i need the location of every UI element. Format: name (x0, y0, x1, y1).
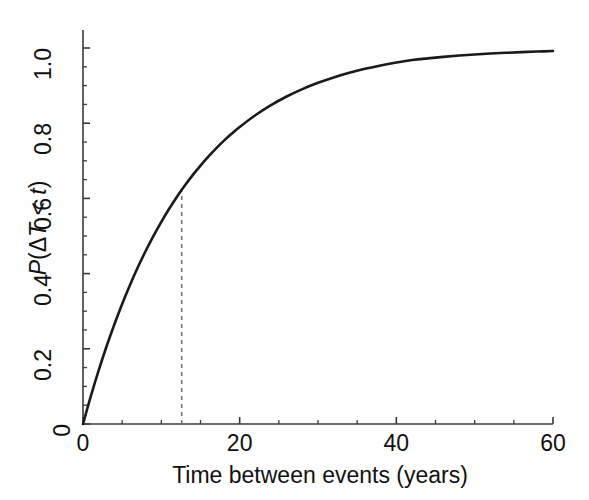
x-tick-label-0: 0 (77, 430, 90, 457)
chart-figure: 0204060 00.20.40.60.81.0 Time between ev… (0, 0, 589, 500)
y-tick-label-0-4: 0.4 (30, 274, 57, 306)
data-series-layer (83, 51, 553, 424)
y-tick-label-0: 0 (49, 424, 76, 437)
x-tick-label-60: 60 (540, 430, 566, 457)
plot-canvas (0, 0, 589, 500)
x-tick-label-40: 40 (384, 430, 410, 457)
y-tick-label-0-2: 0.2 (30, 349, 57, 381)
y-tick-label-0-8: 0.8 (30, 123, 57, 155)
y-axis-title-t-lower: t (25, 188, 51, 194)
x-axis-title: Time between events (years) (172, 462, 468, 489)
x-tick-label-20: 20 (227, 430, 253, 457)
y-axis-title-less-than: < (25, 195, 51, 223)
y-axis-title-delta: Δ (25, 237, 51, 252)
y-axis-title-open-paren: ( (25, 252, 51, 260)
y-axis-title: P(ΔT < t) (25, 181, 52, 276)
y-axis-title-close-paren: ) (25, 181, 51, 189)
series-curve (83, 51, 553, 424)
y-axis-title-t-upper: T (25, 223, 51, 237)
y-tick-label-1-0: 1.0 (30, 48, 57, 80)
y-axis-title-p: P (25, 260, 51, 275)
